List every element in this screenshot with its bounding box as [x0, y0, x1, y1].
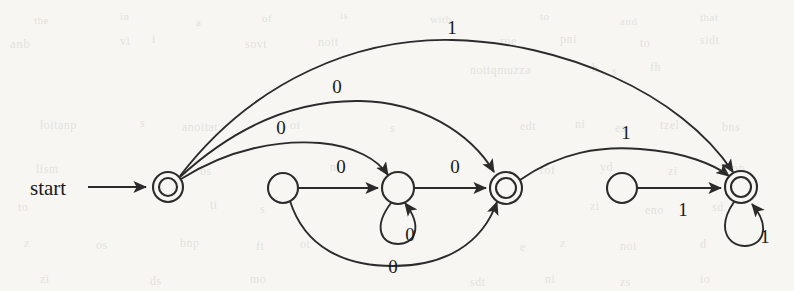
edge-q0-to-q3-zero-label: 0 [332, 76, 342, 97]
edge-q2-to-q3-zero-label: 0 [450, 156, 460, 177]
state-q1-outer-circle [268, 173, 298, 203]
edge-q0-to-q2-zero-label: 0 [276, 117, 286, 138]
state-q5[interactable] [725, 171, 757, 203]
state-q1[interactable] [268, 173, 298, 203]
edge-q0-to-q5-one-label: 1 [447, 17, 457, 38]
edge-q1-to-q3-zero-label: 0 [388, 256, 398, 277]
state-q4-outer-circle [607, 173, 637, 203]
transition-labels-group: 1000000111 [276, 17, 770, 277]
state-q2-outer-circle [382, 172, 414, 204]
edges-group [88, 40, 763, 266]
state-q0[interactable] [153, 172, 183, 202]
state-q2[interactable] [382, 172, 414, 204]
edge-q3-to-q5-one-label: 1 [621, 122, 631, 143]
state-q5-outer-circle [725, 171, 757, 203]
state-q0-outer-circle [153, 172, 183, 202]
state-diagram: 1000000111 start [0, 0, 794, 291]
start-label: start [30, 176, 66, 200]
self-loop-q5-one [725, 202, 763, 246]
state-q3-outer-circle [490, 172, 522, 204]
state-q3[interactable] [490, 172, 522, 204]
self-loop-q2-zero-label: 0 [405, 224, 415, 245]
edge-q4-to-q5-one-label: 1 [678, 199, 688, 220]
self-loop-q5-one-label: 1 [760, 226, 770, 247]
state-q4[interactable] [607, 173, 637, 203]
edge-q1-to-q2-zero-label: 0 [336, 156, 346, 177]
figure-canvas: theinaofiswithtoandthatanbviisovtnoitrue… [0, 0, 794, 291]
